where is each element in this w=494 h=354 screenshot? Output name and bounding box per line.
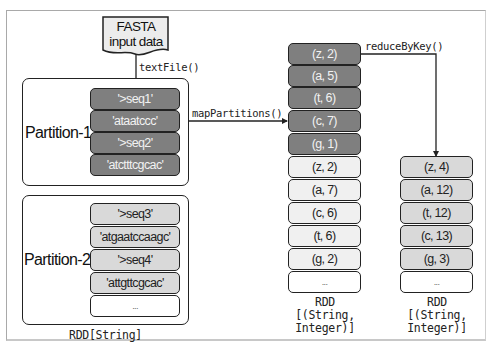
text-file-label: textFile()	[139, 61, 199, 73]
reduced-pair: (a, 12)	[400, 179, 473, 201]
mapped-pair: (c, 7)	[288, 110, 361, 132]
partition-2-ellipsis: ...	[90, 295, 180, 317]
partition-1-record: '>seq1'	[90, 88, 180, 110]
partition-2-record: 'attgttcgcac'	[90, 272, 180, 294]
reduce-by-key-arrow	[361, 54, 436, 156]
reduced-ellipsis: ...	[400, 271, 473, 293]
mapped-rdd-caption-line3: Integer)]	[280, 322, 370, 335]
input-document-line2: input data	[103, 34, 169, 49]
partition-2-record: 'atgaatccaagc'	[90, 226, 180, 248]
map-partitions-label: mapPartitions()	[192, 107, 282, 119]
partition-1-record: 'ataatccc'	[90, 110, 180, 132]
mapped-pair: (a, 7)	[288, 179, 361, 201]
partition-1-record: '>seq2'	[90, 132, 180, 154]
mapped-pair: (z, 2)	[288, 156, 361, 178]
mapped-pair: (g, 2)	[288, 248, 361, 270]
partition-1-record: 'atctttcgcac'	[90, 154, 180, 176]
reduced-rdd-caption-line3: Integer)]	[392, 322, 482, 335]
partition-2-record: '>seq3'	[90, 203, 180, 225]
partition-2-record: '>seq4'	[90, 249, 180, 271]
input-document-label: FASTA input data	[103, 19, 169, 49]
reduced-rdd-caption: RDD [(String, Integer)]	[392, 296, 482, 335]
reduced-pair: (z, 4)	[400, 156, 473, 178]
mapped-rdd-caption: RDD [(String, Integer)]	[280, 296, 370, 335]
reduced-pair: (t, 12)	[400, 202, 473, 224]
mapped-pair: (g, 1)	[288, 133, 361, 155]
mapped-pair: (z, 2)	[288, 43, 361, 65]
reduced-pair: (c, 13)	[400, 225, 473, 247]
mapped-ellipsis: ...	[288, 271, 361, 293]
input-document-line1: FASTA	[103, 19, 169, 34]
reduce-by-key-label: reduceByKey()	[365, 40, 443, 52]
mapped-pair: (c, 6)	[288, 202, 361, 224]
string-rdd-caption: RDD[String]	[22, 329, 189, 342]
partition-2-label: Partition-2	[24, 251, 90, 269]
mapped-pair: (t, 6)	[288, 87, 361, 109]
reduced-pair: (g, 3)	[400, 248, 473, 270]
mapped-pair: (t, 6)	[288, 225, 361, 247]
mapped-pair: (a, 5)	[288, 65, 361, 87]
partition-1-label: Partition-1	[25, 124, 91, 142]
